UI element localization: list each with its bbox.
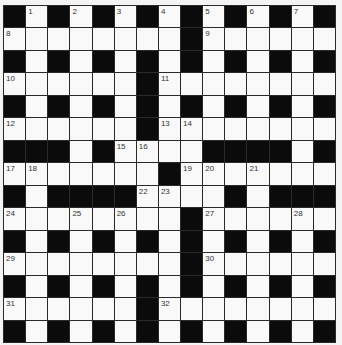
- crossword-cell[interactable]: [203, 73, 224, 94]
- crossword-cell[interactable]: [270, 163, 291, 184]
- crossword-cell[interactable]: [292, 231, 313, 252]
- crossword-cell[interactable]: [159, 51, 180, 72]
- crossword-cell[interactable]: 21: [247, 163, 268, 184]
- crossword-cell[interactable]: 2: [70, 6, 91, 27]
- crossword-cell[interactable]: 11: [159, 73, 180, 94]
- crossword-cell[interactable]: [225, 118, 246, 139]
- crossword-cell[interactable]: [159, 28, 180, 49]
- crossword-cell[interactable]: [26, 321, 47, 342]
- crossword-cell[interactable]: [203, 51, 224, 72]
- crossword-cell[interactable]: [70, 141, 91, 162]
- crossword-cell[interactable]: 8: [4, 28, 25, 49]
- crossword-cell[interactable]: 10: [4, 73, 25, 94]
- crossword-cell[interactable]: [93, 73, 114, 94]
- crossword-cell[interactable]: [314, 73, 335, 94]
- crossword-cell[interactable]: 9: [203, 28, 224, 49]
- crossword-cell[interactable]: [270, 28, 291, 49]
- crossword-cell[interactable]: [70, 298, 91, 319]
- crossword-cell[interactable]: [247, 253, 268, 274]
- crossword-cell[interactable]: [159, 141, 180, 162]
- crossword-cell[interactable]: [70, 96, 91, 117]
- crossword-cell[interactable]: 29: [4, 253, 25, 274]
- crossword-cell[interactable]: [247, 276, 268, 297]
- crossword-cell[interactable]: 23: [159, 186, 180, 207]
- crossword-cell[interactable]: [225, 73, 246, 94]
- crossword-cell[interactable]: [292, 73, 313, 94]
- crossword-cell[interactable]: [247, 51, 268, 72]
- crossword-cell[interactable]: [115, 163, 136, 184]
- crossword-cell[interactable]: [70, 51, 91, 72]
- crossword-cell[interactable]: [247, 208, 268, 229]
- crossword-cell[interactable]: [115, 276, 136, 297]
- crossword-cell[interactable]: [292, 96, 313, 117]
- crossword-cell[interactable]: 5: [203, 6, 224, 27]
- crossword-cell[interactable]: 20: [203, 163, 224, 184]
- crossword-cell[interactable]: [48, 163, 69, 184]
- crossword-cell[interactable]: [70, 163, 91, 184]
- crossword-cell[interactable]: [270, 118, 291, 139]
- crossword-cell[interactable]: 17: [4, 163, 25, 184]
- crossword-cell[interactable]: [225, 253, 246, 274]
- crossword-cell[interactable]: [270, 298, 291, 319]
- crossword-cell[interactable]: 14: [181, 118, 202, 139]
- crossword-cell[interactable]: [115, 118, 136, 139]
- crossword-cell[interactable]: [93, 253, 114, 274]
- crossword-cell[interactable]: [26, 118, 47, 139]
- crossword-cell[interactable]: 28: [292, 208, 313, 229]
- crossword-cell[interactable]: 3: [115, 6, 136, 27]
- crossword-cell[interactable]: [26, 186, 47, 207]
- crossword-cell[interactable]: 12: [4, 118, 25, 139]
- crossword-cell[interactable]: [225, 208, 246, 229]
- crossword-cell[interactable]: [137, 208, 158, 229]
- crossword-cell[interactable]: [203, 231, 224, 252]
- crossword-cell[interactable]: 27: [203, 208, 224, 229]
- crossword-cell[interactable]: [270, 253, 291, 274]
- crossword-cell[interactable]: 19: [181, 163, 202, 184]
- crossword-cell[interactable]: [247, 231, 268, 252]
- crossword-cell[interactable]: [247, 118, 268, 139]
- crossword-cell[interactable]: [247, 321, 268, 342]
- crossword-cell[interactable]: 22: [137, 186, 158, 207]
- crossword-cell[interactable]: 4: [159, 6, 180, 27]
- crossword-cell[interactable]: [181, 186, 202, 207]
- crossword-cell[interactable]: [115, 298, 136, 319]
- crossword-cell[interactable]: [181, 73, 202, 94]
- crossword-cell[interactable]: [48, 28, 69, 49]
- crossword-cell[interactable]: [26, 208, 47, 229]
- crossword-cell[interactable]: [203, 118, 224, 139]
- crossword-cell[interactable]: [26, 253, 47, 274]
- crossword-cell[interactable]: [247, 73, 268, 94]
- crossword-cell[interactable]: [70, 321, 91, 342]
- crossword-cell[interactable]: [203, 321, 224, 342]
- crossword-cell[interactable]: [26, 96, 47, 117]
- crossword-cell[interactable]: [203, 298, 224, 319]
- crossword-cell[interactable]: [292, 51, 313, 72]
- crossword-cell[interactable]: [181, 298, 202, 319]
- crossword-cell[interactable]: 7: [292, 6, 313, 27]
- crossword-cell[interactable]: [270, 73, 291, 94]
- crossword-cell[interactable]: [247, 96, 268, 117]
- crossword-cell[interactable]: 18: [26, 163, 47, 184]
- crossword-cell[interactable]: [159, 253, 180, 274]
- crossword-cell[interactable]: 24: [4, 208, 25, 229]
- crossword-cell[interactable]: [48, 298, 69, 319]
- crossword-cell[interactable]: [247, 28, 268, 49]
- crossword-cell[interactable]: [115, 51, 136, 72]
- crossword-cell[interactable]: [26, 231, 47, 252]
- crossword-cell[interactable]: 15: [115, 141, 136, 162]
- crossword-cell[interactable]: [225, 298, 246, 319]
- crossword-cell[interactable]: [93, 298, 114, 319]
- crossword-cell[interactable]: [70, 253, 91, 274]
- crossword-cell[interactable]: 1: [26, 6, 47, 27]
- crossword-cell[interactable]: [314, 163, 335, 184]
- crossword-cell[interactable]: [137, 253, 158, 274]
- crossword-cell[interactable]: [292, 321, 313, 342]
- crossword-cell[interactable]: [314, 208, 335, 229]
- crossword-cell[interactable]: 6: [247, 6, 268, 27]
- crossword-cell[interactable]: 32: [159, 298, 180, 319]
- crossword-cell[interactable]: [159, 321, 180, 342]
- crossword-cell[interactable]: [247, 186, 268, 207]
- crossword-cell[interactable]: [292, 28, 313, 49]
- crossword-cell[interactable]: [115, 253, 136, 274]
- crossword-cell[interactable]: 25: [70, 208, 91, 229]
